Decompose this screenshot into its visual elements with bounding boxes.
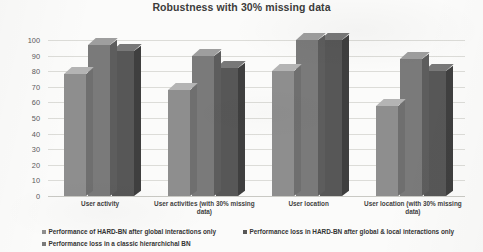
y-axis-tick-label: 10 xyxy=(4,176,40,185)
y-axis-tick-label: 60 xyxy=(4,98,40,107)
bar-front-face xyxy=(376,106,398,196)
legend-swatch-icon xyxy=(42,230,46,234)
bar xyxy=(168,90,190,196)
bar-side-face xyxy=(110,39,117,196)
bar-front-face xyxy=(64,74,86,196)
y-axis-tick-label: 90 xyxy=(4,51,40,60)
chart-title: Robustness with 30% missing data xyxy=(0,1,483,13)
bar-group xyxy=(376,20,453,196)
legend-item-2[interactable]: Performance loss in a classic hierarchic… xyxy=(42,239,191,248)
bar-side-face xyxy=(398,100,405,196)
legend-item-label: Performance loss in HARD-BN after global… xyxy=(250,228,455,235)
bar-side-face xyxy=(342,35,349,196)
chart-legend: Performance of HARD-BN after global inte… xyxy=(0,226,483,252)
x-axis-line xyxy=(48,196,465,197)
y-axis-tick-label: 100 xyxy=(4,36,40,45)
bar-side-face xyxy=(214,50,221,196)
bar-side-face xyxy=(190,85,197,196)
bar-group xyxy=(64,20,141,196)
y-axis-tick-label: 20 xyxy=(4,160,40,169)
bar-side-face xyxy=(318,35,325,196)
x-axis-category-label: User location (with 30% missing data) xyxy=(361,200,465,216)
legend-item-0[interactable]: Performance of HARD-BN after global inte… xyxy=(42,227,216,236)
legend-item-label: Performance loss in a classic hierarchic… xyxy=(49,240,191,247)
bar-side-face xyxy=(422,53,429,196)
y-axis-tick-label: 70 xyxy=(4,82,40,91)
bar-side-face xyxy=(238,63,245,196)
legend-item-label: Performance of HARD-BN after global inte… xyxy=(49,228,217,235)
y-axis-tick-label: 0 xyxy=(4,192,40,201)
y-axis-tick-label: 40 xyxy=(4,129,40,138)
bar-front-face xyxy=(168,90,190,196)
bar-side-face xyxy=(134,46,141,196)
bar xyxy=(376,106,398,196)
y-axis-tick-label: 30 xyxy=(4,145,40,154)
y-axis-tick-label: 80 xyxy=(4,67,40,76)
bar-side-face xyxy=(446,66,453,196)
bar-group xyxy=(272,20,349,196)
bar-side-face xyxy=(86,69,93,196)
bar xyxy=(64,74,86,196)
bar xyxy=(272,71,294,196)
y-axis-tick-label: 50 xyxy=(4,114,40,123)
legend-swatch-icon xyxy=(42,242,46,246)
bar-side-face xyxy=(294,66,301,196)
bar-group xyxy=(168,20,245,196)
bar-front-face xyxy=(272,71,294,196)
x-axis-category-label: User activity xyxy=(48,200,152,208)
bars-layer xyxy=(48,20,465,196)
y-axis: 0102030405060708090100 xyxy=(0,40,44,196)
x-axis-category-label: User location xyxy=(257,200,361,208)
legend-item-1[interactable]: Performance loss in HARD-BN after global… xyxy=(243,227,454,236)
legend-swatch-icon xyxy=(243,230,247,234)
x-axis-category-label: User activities (with 30% missing data) xyxy=(152,200,256,216)
